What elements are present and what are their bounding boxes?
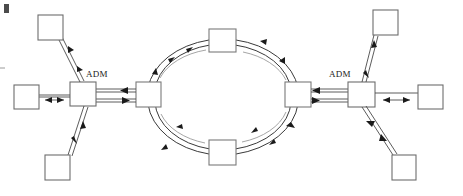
client-bottom-left[interactable]	[45, 155, 70, 180]
link-right-mid-arrow-west	[383, 97, 390, 103]
link-right-mid-arrow-east	[403, 97, 410, 103]
client-top-right[interactable]	[373, 10, 398, 35]
ring-guide-arc-group	[160, 50, 286, 143]
link-left-mid-arrow-east	[57, 97, 64, 103]
ring-arrow-left-upper	[152, 68, 158, 75]
corner-mark-top-left	[4, 4, 9, 13]
network-diagram-svg: ADM ADM	[0, 0, 463, 196]
adm-label-right: ADM	[329, 69, 351, 79]
link-left-mid-arrow-west	[45, 97, 52, 103]
link-right-bottom-a	[362, 107, 393, 155]
ring-arc-inner-topleft	[155, 45, 210, 90]
ring-arrow-topright-outer	[260, 39, 267, 45]
client-mid-right[interactable]	[418, 85, 443, 109]
client-bottom-right[interactable]	[392, 155, 416, 180]
link-left-top-arrow-down	[68, 46, 74, 53]
ring-inner-arc-group	[155, 45, 291, 149]
client-top-left[interactable]	[38, 15, 63, 40]
ring-arrow-topright-inner	[279, 57, 285, 64]
link-adm-left-ring-arrow-east	[122, 97, 130, 104]
link-adm-left-ring-arrow-west	[120, 87, 128, 94]
network-diagram-canvas: ADM ADM	[0, 0, 463, 196]
link-left-top-a	[58, 38, 80, 82]
link-adm-right-to-ring	[311, 87, 348, 104]
link-left-bottom-b	[72, 107, 88, 156]
ring-node-right[interactable]	[285, 82, 311, 107]
link-adm-right-ring-arrow-west	[312, 87, 320, 94]
link-adm-left-client-mid	[39, 95, 70, 103]
ring-node-top[interactable]	[209, 29, 236, 52]
link-adm-right-ring-arrow-east	[312, 97, 320, 104]
link-left-top-arrow-down-2	[77, 66, 83, 72]
link-adm-right-client-mid	[375, 93, 418, 103]
link-adm-left-client-top	[58, 37, 84, 82]
adm-node-right[interactable]	[348, 82, 375, 107]
link-right-bottom-arrow-up	[366, 121, 375, 127]
link-adm-right-client-top	[362, 35, 378, 82]
adm-node-left[interactable]	[70, 82, 96, 106]
link-adm-left-to-ring	[96, 87, 136, 104]
ring-arrow-bottomleft-inner	[176, 124, 183, 129]
link-adm-left-client-bottom	[68, 106, 88, 156]
link-adm-right-client-bottom	[362, 106, 397, 155]
link-left-bottom-a	[68, 106, 84, 155]
link-left-top-b	[62, 37, 84, 81]
ring-arrow-bottomright-inner	[251, 127, 258, 133]
adm-label-left: ADM	[86, 69, 108, 79]
client-mid-left[interactable]	[14, 85, 39, 109]
ring-arrow-bottomleft-outer	[161, 144, 168, 150]
ring-outer-arc-group	[148, 40, 298, 154]
ring-node-bottom[interactable]	[209, 140, 236, 165]
ring-node-left[interactable]	[136, 82, 161, 107]
link-left-bottom-arrow-up	[80, 121, 86, 129]
link-right-bottom-b	[366, 106, 397, 154]
